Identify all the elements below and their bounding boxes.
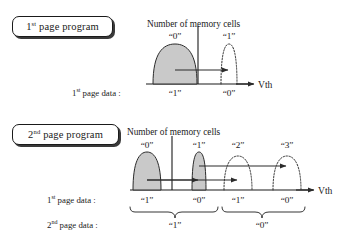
panel1-row0-cell1: “0” (223, 89, 236, 98)
panel2-row0-cell0: “1” (141, 196, 154, 205)
panel2-row1-cell0: “1” (169, 221, 182, 230)
panel-first-page-chart (146, 26, 254, 84)
panel2-dist-label-3: “3” (281, 141, 294, 150)
tag-first-page-program[interactable]: 1st page program (12, 16, 113, 37)
panel1-row0-cell0: “1” (169, 89, 182, 98)
panel2-x-axis-label: Vth (318, 186, 332, 196)
panel2-dist-label-1: “1” (193, 141, 206, 150)
panel1-x-axis-label: Vth (258, 80, 272, 90)
panel2-row-label-second-page-data: 2nd page data : (47, 221, 98, 230)
distribution-2-dotted (224, 156, 252, 190)
brace-group-0 (222, 207, 305, 218)
brace-group-1 (130, 207, 218, 218)
panel2-row0-cell3: “0” (281, 196, 294, 205)
panel2-row0-cell2: “1” (232, 196, 245, 205)
distribution-0-filled (153, 44, 197, 84)
distribution-1-dotted (221, 44, 237, 84)
tag-second-page-program[interactable]: 2nd page program (12, 124, 119, 145)
panel2-row1-cell1: “0” (256, 221, 269, 230)
panel1-y-axis-title: Number of memory cells (147, 20, 240, 29)
panel2-y-axis-title: Number of memory cells (127, 128, 220, 137)
tag-second-page-program-label: 2nd page program (28, 129, 103, 140)
distribution-0-filled (133, 152, 161, 190)
panel2-dist-label-2: “2” (232, 141, 245, 150)
panel2-row-label-first-page-data: 1st page data : (47, 196, 96, 205)
panel2-dist-label-0: “0” (141, 141, 154, 150)
tag-first-page-program-label: 1st page program (26, 21, 99, 32)
diagram-canvas: 1st page program Number of memory cells … (0, 0, 340, 240)
panel1-dist-label-0: “0” (169, 32, 182, 41)
panel1-row-label-first-page-data: 1st page data : (72, 89, 121, 98)
panel1-dist-label-1: “1” (223, 32, 236, 41)
panel2-row0-cell1: “0” (193, 196, 206, 205)
distribution-1-filled (192, 152, 206, 190)
distribution-3-dotted (273, 156, 301, 190)
